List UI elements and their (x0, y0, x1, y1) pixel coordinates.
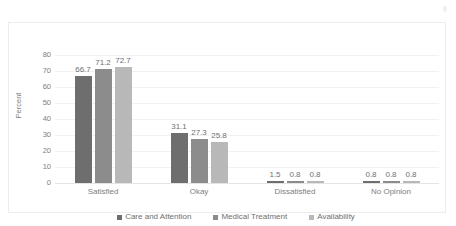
bar-slot: 66.7 (75, 55, 92, 183)
legend-item[interactable]: Care and Attention (117, 213, 191, 221)
bar-group: 1.50.80.8 (247, 55, 343, 183)
bar-value-label: 0.8 (365, 171, 376, 179)
bar-value-label: 0.8 (289, 171, 300, 179)
y-axis-tick: 50 (43, 99, 51, 107)
y-axis-tick: 40 (43, 115, 51, 123)
bar-slot: 27.3 (191, 55, 208, 183)
bar-value-label: 31.1 (171, 123, 187, 131)
y-axis-tick: 30 (43, 131, 51, 139)
y-axis-tick: 20 (43, 147, 51, 155)
chart-container: Percent 80706050403020100 66.771.272.731… (8, 22, 446, 213)
bar-value-label: 0.8 (309, 171, 320, 179)
bar[interactable] (267, 181, 284, 183)
x-axis-category-labels: SatisfiedOkayDissatisfiedNo Opinion (55, 188, 439, 200)
bar[interactable] (403, 181, 420, 183)
bar-slot: 0.8 (287, 55, 304, 183)
legend-label: Availability (317, 213, 355, 221)
plot-area: 66.771.272.731.127.325.81.50.80.80.80.80… (55, 55, 439, 183)
legend-label: Care and Attention (125, 213, 191, 221)
y-axis-title: Percent (14, 78, 23, 134)
y-axis-tick: 80 (43, 51, 51, 59)
bar[interactable] (287, 181, 304, 183)
bar[interactable] (115, 67, 132, 183)
bar-slot: 25.8 (211, 55, 228, 183)
y-axis-tick-labels: 80706050403020100 (31, 55, 51, 183)
bar-slot: 0.8 (363, 55, 380, 183)
y-axis-tick: 10 (43, 163, 51, 171)
x-axis-category-label: Satisfied (88, 188, 119, 196)
bar-group: 66.771.272.7 (55, 55, 151, 183)
bar[interactable] (75, 76, 92, 183)
bar-value-label: 27.3 (191, 129, 207, 137)
axis-baseline (55, 183, 439, 184)
bar[interactable] (211, 142, 228, 183)
bar[interactable] (383, 181, 400, 183)
bar-value-label: 66.7 (75, 66, 91, 74)
chart-legend: Care and AttentionMedical TreatmentAvail… (17, 213, 455, 221)
bar-slot: 72.7 (115, 55, 132, 183)
bar-value-label: 1.5 (269, 171, 280, 179)
bar-slot: 1.5 (267, 55, 284, 183)
x-axis-category-label: Okay (190, 188, 209, 196)
bar-group: 31.127.325.8 (151, 55, 247, 183)
bar-value-label: 0.8 (405, 171, 416, 179)
bar-slot: 31.1 (171, 55, 188, 183)
legend-swatch-icon (117, 215, 122, 220)
legend-item[interactable]: Availability (309, 213, 355, 221)
bar-slot: 0.8 (383, 55, 400, 183)
legend-label: Medical Treatment (221, 213, 287, 221)
bar-group: 0.80.80.8 (343, 55, 439, 183)
scan-artifact-top-right (443, 6, 447, 12)
bar-value-label: 25.8 (211, 132, 227, 140)
bar[interactable] (95, 69, 112, 183)
legend-swatch-icon (213, 215, 218, 220)
bar[interactable] (171, 133, 188, 183)
bar-slot: 0.8 (403, 55, 420, 183)
x-axis-category-label: No Opinion (371, 188, 411, 196)
legend-swatch-icon (309, 215, 314, 220)
bar-value-label: 0.8 (385, 171, 396, 179)
bar-value-label: 72.7 (115, 57, 131, 65)
bar-slot: 0.8 (307, 55, 324, 183)
bar-value-label: 71.2 (95, 59, 111, 67)
y-axis-tick: 0 (47, 179, 51, 187)
y-axis-tick: 60 (43, 83, 51, 91)
legend-item[interactable]: Medical Treatment (213, 213, 287, 221)
y-axis-tick: 70 (43, 67, 51, 75)
bar[interactable] (363, 181, 380, 183)
bar[interactable] (191, 139, 208, 183)
bar[interactable] (307, 181, 324, 183)
x-axis-category-label: Dissatisfied (275, 188, 316, 196)
bar-slot: 71.2 (95, 55, 112, 183)
